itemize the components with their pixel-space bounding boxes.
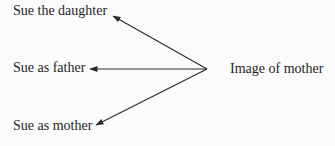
arrow-to-sue-as-mother [96,69,207,125]
diagram-canvas: Sue the daughter Sue as father Sue as mo… [0,0,335,146]
arrows-layer [0,0,335,146]
arrow-to-sue-the-daughter [113,16,207,69]
